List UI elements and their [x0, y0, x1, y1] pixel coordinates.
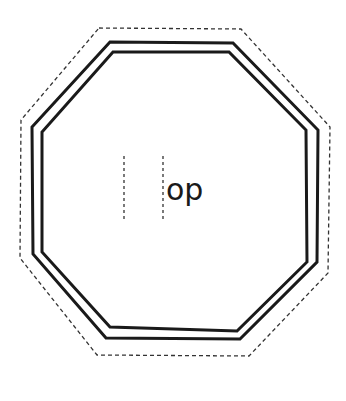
label-text: op — [166, 172, 203, 207]
octagon-diagram: op — [0, 0, 346, 401]
